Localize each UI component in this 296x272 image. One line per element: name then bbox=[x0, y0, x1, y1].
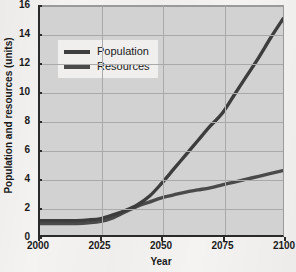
legend-swatch-resources bbox=[64, 65, 90, 69]
legend-label-population: Population bbox=[97, 46, 149, 57]
y-tick-mark bbox=[38, 150, 42, 152]
gridline-horizontal bbox=[40, 209, 283, 210]
x-tick-label: 2075 bbox=[203, 241, 243, 251]
x-tick-label: 2025 bbox=[80, 241, 120, 251]
plot-inner: Population Resources bbox=[40, 6, 283, 235]
gridline-horizontal bbox=[40, 122, 283, 123]
gridline-vertical bbox=[163, 6, 164, 235]
x-axis-title: Year bbox=[38, 256, 284, 267]
y-tick-mark bbox=[38, 63, 42, 65]
x-tick-mark bbox=[223, 237, 225, 241]
gridline-horizontal bbox=[40, 64, 283, 65]
gridline-horizontal bbox=[40, 93, 283, 94]
gridline-horizontal bbox=[40, 6, 283, 7]
y-axis-title: Population and resources (units) bbox=[3, 0, 14, 232]
y-tick-mark bbox=[38, 5, 42, 7]
x-axis-tick-labels: 20002025205020752100 bbox=[0, 241, 296, 255]
x-tick-mark bbox=[100, 237, 102, 241]
legend-item-population: Population bbox=[64, 44, 150, 59]
gridline-horizontal bbox=[40, 151, 283, 152]
gridline-horizontal bbox=[40, 35, 283, 36]
plot-area: Population Resources bbox=[38, 5, 284, 237]
y-tick-mark bbox=[38, 208, 42, 210]
x-tick-label: 2000 bbox=[18, 241, 58, 251]
x-tick-mark bbox=[284, 237, 286, 241]
line-resources bbox=[40, 171, 283, 224]
gridline-horizontal bbox=[40, 180, 283, 181]
x-tick-mark bbox=[38, 237, 40, 241]
legend-item-resources: Resources bbox=[64, 59, 150, 74]
legend-swatch-population bbox=[64, 50, 90, 54]
chart-figure: 0246810121416 Population Resources 20002… bbox=[0, 0, 296, 272]
y-tick-mark bbox=[38, 92, 42, 94]
y-tick-mark bbox=[38, 179, 42, 181]
y-tick-mark bbox=[38, 34, 42, 36]
gridline-vertical bbox=[225, 6, 226, 235]
y-tick-mark bbox=[38, 121, 42, 123]
legend: Population Resources bbox=[58, 40, 158, 78]
gridline-vertical bbox=[102, 6, 103, 235]
x-tick-label: 2100 bbox=[264, 241, 296, 251]
x-tick-label: 2050 bbox=[141, 241, 181, 251]
legend-label-resources: Resources bbox=[97, 61, 150, 72]
x-tick-mark bbox=[161, 237, 163, 241]
